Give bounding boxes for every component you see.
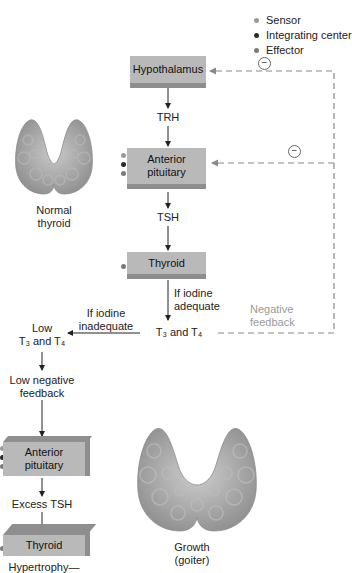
normal-thyroid-icon [10, 118, 98, 198]
integrating-center-dot-icon [121, 162, 126, 167]
hypertrophy-label: Hypertrophy— [6, 561, 82, 573]
inhibition-icon: − [258, 57, 271, 70]
thyroid-box-2: Thyroid [3, 535, 85, 556]
effector-dot-icon [121, 171, 126, 176]
goiter-label: Growth(goiter) [160, 541, 224, 567]
pituitary-box-side-face [85, 436, 90, 476]
sensor-dot-icon [121, 153, 126, 158]
thyroid-box: Thyroid [127, 252, 206, 279]
negative-feedback-label: Negativefeedback [250, 303, 295, 329]
goiter-thyroid-icon [134, 425, 260, 535]
inhibition-icon: − [288, 145, 301, 158]
legend-effector: Effector [254, 44, 304, 57]
low-negative-feedback-label: Low negativefeedback [4, 374, 80, 400]
thyroid-box-side-face [85, 524, 90, 556]
hypothalamus-box: Hypothalamus [130, 56, 206, 88]
effector-dot-icon [254, 48, 259, 53]
sensor-dot-icon [254, 18, 259, 23]
legend-integrating-center: Integrating center [254, 29, 352, 42]
trh-label: TRH [150, 111, 186, 124]
anterior-pituitary-box-2: Anteriorpituitary [3, 442, 85, 476]
low-t3-t4-label: LowT₃ and T₄ [10, 322, 74, 348]
tsh-label: TSH [150, 211, 186, 224]
if-iodine-adequate-label: If iodineadequate [174, 287, 220, 313]
normal-thyroid-label: Normalthyroid [22, 204, 86, 230]
integrating-center-dot-icon [254, 33, 259, 38]
thyroid-box-top-face [3, 524, 96, 535]
effector-dot-icon [121, 264, 126, 269]
legend-sensor: Sensor [254, 14, 301, 27]
negative-feedback-to-hypothalamus [210, 71, 334, 333]
if-iodine-inadequate-label: If iodineinadequate [76, 307, 136, 333]
anterior-pituitary-box: Anteriorpituitary [127, 148, 206, 189]
t3-t4-label: T₃ and T₄ [139, 326, 219, 339]
excess-tsh-label: Excess TSH [4, 498, 80, 511]
